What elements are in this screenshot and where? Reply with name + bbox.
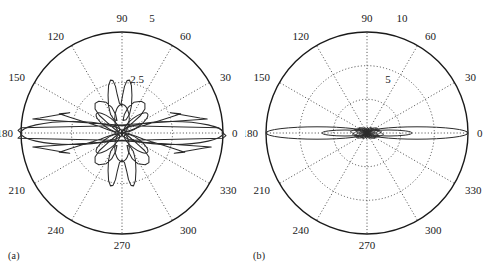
figure-container: 0 30 60 90 120 150 180 210 240 270 300 3… bbox=[0, 0, 490, 267]
panel-caption-a: (a) bbox=[8, 250, 20, 261]
ang-label-120-a: 120 bbox=[48, 30, 65, 42]
ang-label-240-b: 240 bbox=[293, 224, 310, 236]
ang-label-210-b: 210 bbox=[254, 184, 271, 196]
ang-label-30-a: 30 bbox=[220, 71, 232, 83]
ang-label-270-b: 270 bbox=[359, 239, 376, 251]
ang-label-300-a: 300 bbox=[180, 224, 197, 236]
ang-label-90-a: 90 bbox=[117, 12, 129, 24]
ang-label-240-a: 240 bbox=[48, 224, 65, 236]
main-lobe-right-a bbox=[121, 122, 223, 145]
ang-label-150-a: 150 bbox=[9, 71, 26, 83]
ang-label-30-b: 30 bbox=[465, 71, 477, 83]
ang-label-60-a: 60 bbox=[180, 30, 192, 42]
polar-panel-b: 0 30 60 90 120 150 180 210 240 270 300 3… bbox=[245, 0, 490, 267]
polar-panel-a: 0 30 60 90 120 150 180 210 240 270 300 3… bbox=[0, 0, 245, 267]
ang-label-180-b: 180 bbox=[245, 127, 259, 139]
panel-caption-b: (b) bbox=[253, 250, 265, 261]
ang-label-330-b: 330 bbox=[465, 184, 482, 196]
ang-label-60-b: 60 bbox=[425, 30, 437, 42]
ang-label-90-b: 90 bbox=[362, 12, 374, 24]
rad-label-5-a: 5 bbox=[149, 12, 155, 24]
rad-label-10-b: 10 bbox=[397, 12, 409, 24]
polar-chart-a: 0 30 60 90 120 150 180 210 240 270 300 3… bbox=[0, 0, 245, 267]
ang-label-300-b: 300 bbox=[425, 224, 442, 236]
radial-tick-labels-a: 2.5 5 bbox=[130, 12, 155, 85]
ang-label-0-b: 0 bbox=[477, 127, 483, 139]
polar-chart-b: 0 30 60 90 120 150 180 210 240 270 300 3… bbox=[245, 0, 490, 267]
radial-tick-labels-b: 5 10 bbox=[385, 12, 408, 85]
ang-label-0-a: 0 bbox=[232, 127, 238, 139]
rad-label-5-b: 5 bbox=[385, 73, 391, 85]
ang-label-120-b: 120 bbox=[293, 30, 310, 42]
ang-label-270-a: 270 bbox=[114, 239, 131, 251]
ang-label-150-b: 150 bbox=[254, 71, 271, 83]
ang-label-180-a: 180 bbox=[0, 127, 14, 139]
rad-label-2p5-a: 2.5 bbox=[130, 73, 144, 85]
ang-label-330-a: 330 bbox=[220, 184, 237, 196]
ang-label-210-a: 210 bbox=[9, 184, 26, 196]
